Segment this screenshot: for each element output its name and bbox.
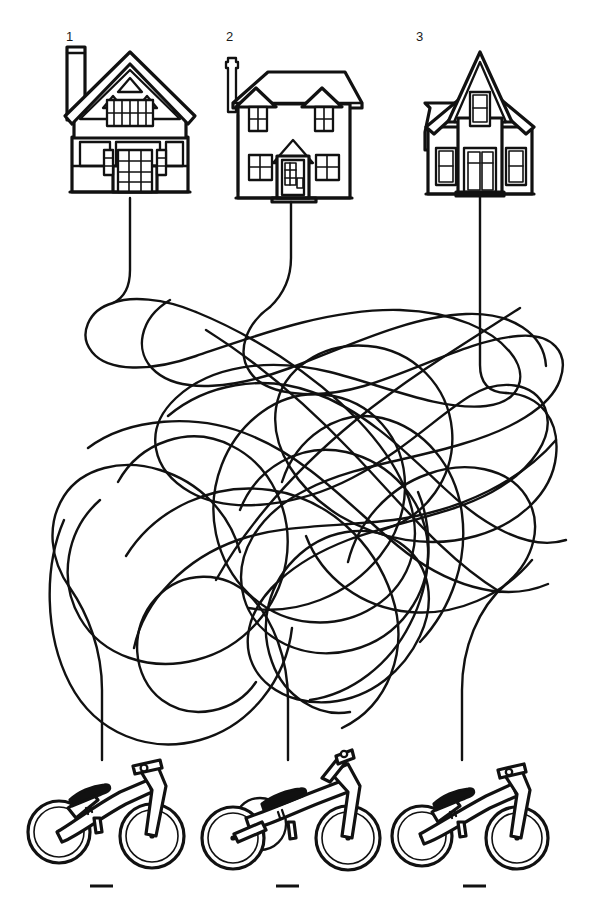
bike-2	[202, 750, 380, 870]
house-2	[226, 58, 362, 202]
puzzle-worksheet: 1 2 3	[0, 0, 591, 916]
puzzle-artwork	[0, 0, 591, 916]
lead-line-house-3	[480, 196, 506, 393]
tangle-strand-1	[53, 299, 548, 760]
bike-1	[28, 760, 184, 868]
lead-line-house-2	[270, 202, 291, 307]
house-1	[65, 47, 195, 192]
house-3	[425, 52, 534, 196]
tangle-decoy-lines	[50, 308, 566, 744]
lead-line-house-1	[113, 198, 130, 303]
bike-3	[392, 764, 548, 869]
